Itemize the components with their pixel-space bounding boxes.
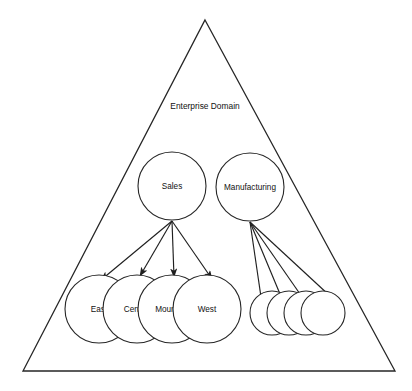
west-node[interactable]: West — [173, 275, 241, 343]
sales-to-east — [101, 221, 172, 280]
sales-to-mountain — [172, 221, 174, 277]
sales-connectors — [101, 221, 212, 280]
mfg-to-child-1 — [250, 222, 261, 297]
west-label: West — [198, 305, 217, 314]
sales-to-west — [172, 221, 212, 279]
mfg-child-4-circle[interactable] — [301, 291, 345, 335]
manufacturing-label: Manufacturing — [224, 183, 276, 192]
parent-nodes: SalesManufacturing — [138, 152, 284, 221]
enterprise-domain-label: Enterprise Domain — [170, 101, 240, 111]
sales-child-nodes: EastCentralMountainWest — [65, 275, 241, 343]
diagram-svg: Enterprise Domain EastCentralMountainWes… — [0, 0, 412, 391]
sales-node[interactable]: Sales — [138, 152, 206, 220]
manufacturing-node[interactable]: Manufacturing — [216, 153, 284, 221]
sales-to-central — [140, 221, 172, 276]
mfg-child-4-node[interactable] — [301, 291, 345, 335]
mfg-to-child-4 — [250, 222, 330, 296]
manufacturing-connectors — [250, 222, 330, 297]
manufacturing-child-nodes — [250, 291, 345, 335]
diagram-canvas: Enterprise Domain EastCentralMountainWes… — [0, 0, 412, 391]
sales-label: Sales — [162, 182, 182, 191]
